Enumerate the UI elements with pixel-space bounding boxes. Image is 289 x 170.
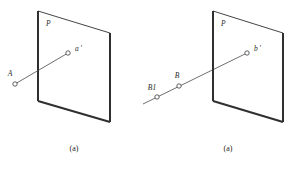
point-label-b-prime: b ′	[254, 44, 261, 53]
point-marker-A	[13, 82, 17, 86]
point-marker-a-prime	[66, 51, 70, 55]
plane-label-p: P	[45, 19, 51, 28]
point-label-B: B	[175, 71, 180, 80]
panel-a-right: P B1 B b ′ (a)	[143, 11, 283, 153]
plane-label-p: P	[220, 19, 226, 28]
projection-diagram: P A a ′ (a) P B1 B b ′ (a)	[0, 0, 289, 170]
point-marker-B	[177, 84, 181, 88]
point-marker-B1	[155, 95, 159, 99]
point-marker-b-prime	[245, 51, 249, 55]
panel-caption-right: (a)	[224, 144, 233, 153]
point-label-B1: B1	[148, 83, 156, 92]
figure-container: P A a ′ (a) P B1 B b ′ (a)	[0, 0, 289, 170]
point-label-a-prime: a ′	[75, 44, 82, 53]
panel-a-left: P A a ′ (a)	[7, 11, 110, 153]
point-label-A: A	[7, 69, 13, 78]
panel-caption-left: (a)	[70, 144, 79, 153]
